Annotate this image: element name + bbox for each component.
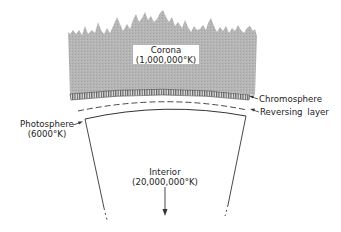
photosphere-label: Photosphere bbox=[20, 119, 74, 129]
interior-right-edge bbox=[228, 116, 246, 205]
reversing-layer-leader bbox=[250, 109, 259, 113]
interior-arrow-icon bbox=[163, 187, 168, 216]
reversing-layer-label: Reversing layer bbox=[260, 107, 329, 117]
chromosphere-leader bbox=[249, 96, 258, 100]
interior-right-edge-fade bbox=[225, 205, 228, 216]
interior-left-edge bbox=[85, 119, 104, 208]
interior-left-edge-fade bbox=[104, 208, 107, 220]
photosphere-arc bbox=[85, 109, 246, 119]
photosphere-temperature: (6000°K) bbox=[20, 129, 74, 139]
corona-label: Corona bbox=[133, 45, 199, 55]
interior-temperature: (20,000,000°K) bbox=[125, 177, 205, 187]
interior-label: Interior bbox=[125, 167, 205, 177]
photosphere-leader bbox=[73, 122, 83, 126]
corona-temperature: (1,000,000°K) bbox=[133, 55, 199, 65]
chromosphere-label: Chromosphere bbox=[259, 94, 322, 104]
